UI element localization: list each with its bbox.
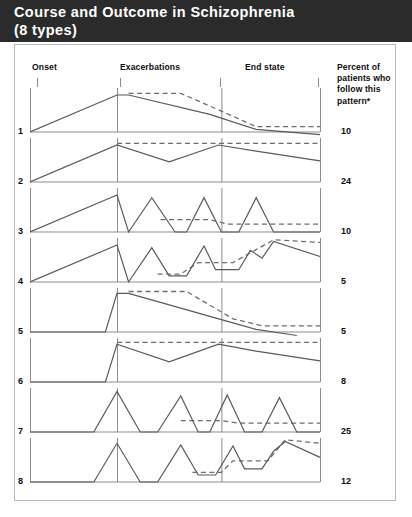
course-solid-line <box>30 392 320 433</box>
header-tick-onset <box>37 78 38 87</box>
column-header-end-state: End state <box>245 62 285 72</box>
page-title: Course and Outcome in Schizophrenia <box>14 3 394 21</box>
pattern-percent-value: 12 <box>341 476 351 486</box>
pattern-row-number: 2 <box>18 176 23 186</box>
pattern-plot <box>30 288 322 342</box>
pattern-percent-value: 5 <box>341 326 346 336</box>
column-header-percent: Percent of patients who follow this patt… <box>337 62 407 107</box>
pattern-percent-value: 10 <box>341 126 351 136</box>
course-solid-line <box>30 442 320 483</box>
pattern-panel <box>30 138 320 192</box>
page-subtitle: (8 types) <box>14 21 77 39</box>
header-tick-percent <box>318 78 319 87</box>
column-header-exacerbations: Exacerbations <box>120 62 180 72</box>
pattern-panel <box>30 238 320 292</box>
course-solid-line <box>30 242 320 283</box>
pattern-panel <box>30 88 320 142</box>
pattern-panel <box>30 288 320 342</box>
pattern-percent-value: 8 <box>341 376 346 386</box>
pattern-percent-value: 25 <box>341 426 351 436</box>
outcome-dashed-line <box>129 93 320 126</box>
course-solid-line <box>30 145 320 182</box>
figure-root: Course and Outcome in Schizophrenia (8 t… <box>0 0 412 517</box>
pattern-plot <box>30 188 322 242</box>
outcome-dashed-line <box>192 440 320 473</box>
pattern-percent-value: 24 <box>341 176 351 186</box>
pattern-plot <box>30 88 322 142</box>
pattern-row-number: 3 <box>18 226 23 236</box>
pattern-row-number: 4 <box>18 276 23 286</box>
pattern-percent-value: 5 <box>341 276 346 286</box>
outcome-dashed-line <box>161 220 321 224</box>
title-bar: Course and Outcome in Schizophrenia (8 t… <box>0 0 412 42</box>
header-tick-exacerbations <box>120 78 121 87</box>
pattern-plot <box>30 388 322 442</box>
pattern-panel <box>30 338 320 392</box>
pattern-panel <box>30 388 320 442</box>
pattern-row-number: 5 <box>18 326 23 336</box>
course-solid-line <box>30 293 297 335</box>
course-solid-line <box>30 344 320 382</box>
pattern-panel <box>30 438 320 492</box>
pattern-row-number: 1 <box>18 126 23 136</box>
pattern-row-number: 8 <box>18 476 23 486</box>
pattern-plot <box>30 238 322 292</box>
pattern-row-number: 6 <box>18 376 23 386</box>
pattern-plot <box>30 438 322 492</box>
pattern-panel <box>30 188 320 242</box>
course-solid-line <box>30 95 320 135</box>
course-solid-line <box>30 195 320 232</box>
pattern-percent-value: 10 <box>341 226 351 236</box>
outcome-dashed-line <box>181 421 320 424</box>
pattern-plot <box>30 138 322 192</box>
pattern-plot <box>30 338 322 392</box>
pattern-row-number: 7 <box>18 426 23 436</box>
header-tick-end-state <box>220 78 221 87</box>
column-header-onset: Onset <box>32 62 57 72</box>
